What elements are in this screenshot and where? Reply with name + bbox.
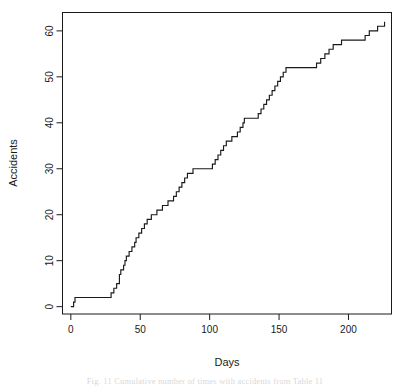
y-tick-label: 0: [44, 303, 55, 309]
x-tick-label: 200: [340, 324, 357, 335]
y-axis-title: Accidents: [7, 139, 19, 187]
x-tick-label: 100: [201, 324, 218, 335]
figure-caption: Fig. 11 Cumulative number of times with …: [0, 377, 410, 386]
y-tick-label: 60: [44, 25, 55, 37]
y-tick-label: 50: [44, 71, 55, 83]
figure-container: 050100150200 0102030405060 Days Accident…: [0, 0, 410, 387]
cumulative-accidents-step-chart: 050100150200 0102030405060 Days Accident…: [0, 0, 410, 387]
x-tick-label: 50: [135, 324, 147, 335]
y-tick-label: 10: [44, 255, 55, 267]
x-tick-label: 0: [68, 324, 74, 335]
y-tick-label: 40: [44, 117, 55, 129]
y-tick-label: 30: [44, 163, 55, 175]
x-tick-label: 150: [271, 324, 288, 335]
y-tick-label: 20: [44, 209, 55, 221]
x-axis-title: Days: [214, 356, 240, 368]
